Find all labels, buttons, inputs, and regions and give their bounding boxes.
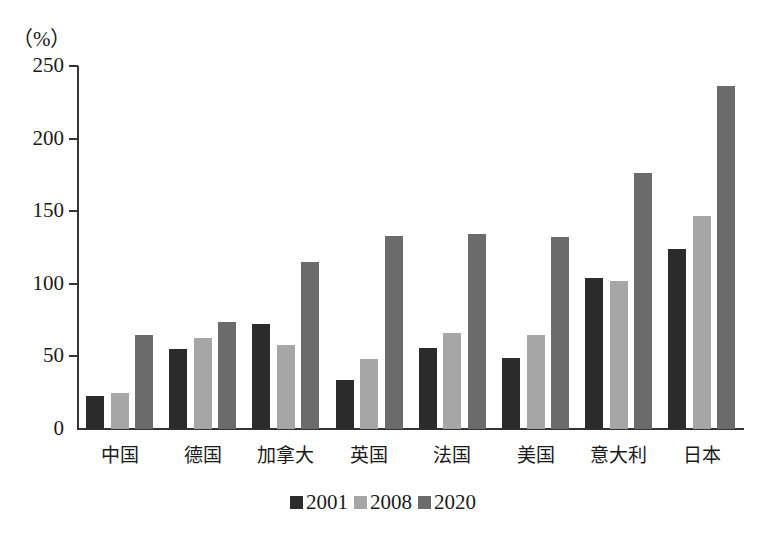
- bar-2008: [194, 338, 212, 429]
- bar-2008: [527, 335, 545, 429]
- y-tick-label: 50: [4, 343, 64, 368]
- legend-item-2001: 2001: [290, 490, 348, 515]
- bar-2001: [169, 349, 187, 429]
- bar-2008: [443, 333, 461, 429]
- legend-swatch-icon: [354, 496, 367, 509]
- legend-item-2020: 2020: [418, 490, 476, 515]
- x-category-label: 德国: [161, 440, 244, 467]
- bar-2008: [610, 281, 628, 429]
- bar-2020: [468, 234, 486, 429]
- x-category-label: 中国: [78, 440, 161, 467]
- y-axis-tick-labels: 050100150200250: [0, 0, 64, 537]
- bar-2001: [419, 348, 437, 429]
- x-category-label: 日本: [660, 440, 743, 467]
- bar-2020: [634, 173, 652, 429]
- bar-2008: [693, 216, 711, 429]
- bar-2001: [502, 358, 520, 429]
- legend-swatch-icon: [418, 496, 431, 509]
- bar-2001: [336, 380, 354, 429]
- bar-2001: [668, 249, 686, 429]
- y-tick-label: 0: [4, 416, 64, 441]
- x-category-label: 英国: [328, 440, 411, 467]
- x-category-label: 加拿大: [244, 440, 327, 467]
- bar-2001: [252, 324, 270, 429]
- bar-2020: [385, 236, 403, 429]
- legend-item-2008: 2008: [354, 490, 412, 515]
- x-category-label: 法国: [411, 440, 494, 467]
- y-tick-mark: [69, 65, 78, 67]
- bar-2001: [585, 278, 603, 429]
- bar-2020: [301, 262, 319, 429]
- y-tick-label: 200: [4, 126, 64, 151]
- bar-2020: [135, 335, 153, 429]
- bar-2020: [551, 237, 569, 429]
- y-tick-label: 150: [4, 198, 64, 223]
- legend-label: 2020: [434, 490, 476, 515]
- y-tick-label: 100: [4, 271, 64, 296]
- legend: 200120082020: [0, 490, 766, 515]
- bar-2008: [360, 359, 378, 429]
- x-category-label: 意大利: [577, 440, 660, 467]
- y-axis-line: [77, 66, 79, 430]
- bar-2001: [86, 396, 104, 429]
- y-tick-mark: [69, 355, 78, 357]
- legend-swatch-icon: [290, 496, 303, 509]
- legend-label: 2001: [306, 490, 348, 515]
- bar-2020: [717, 86, 735, 429]
- x-category-label: 美国: [494, 440, 577, 467]
- y-tick-label: 250: [4, 53, 64, 78]
- bar-2008: [111, 393, 129, 429]
- bar-2008: [277, 345, 295, 429]
- legend-label: 2008: [370, 490, 412, 515]
- y-tick-mark: [69, 210, 78, 212]
- grouped-bar-chart: （%） 050100150200250 中国德国加拿大英国法国美国意大利日本 2…: [0, 0, 766, 537]
- y-tick-mark: [69, 283, 78, 285]
- bar-2020: [218, 322, 236, 429]
- y-tick-mark: [69, 138, 78, 140]
